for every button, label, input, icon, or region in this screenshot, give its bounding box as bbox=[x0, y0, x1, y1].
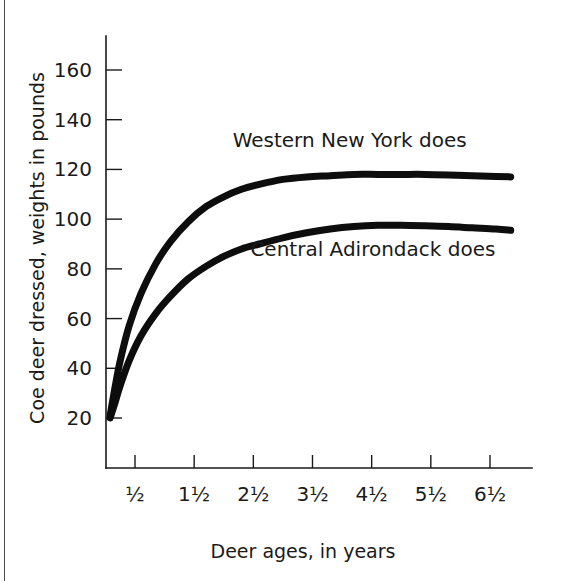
x-axis-ticks: ½1½2½3½4½5½6½ bbox=[125, 455, 506, 506]
y-axis-ticks: 20406080100120140160 bbox=[54, 58, 122, 430]
y-tick-label: 100 bbox=[54, 207, 92, 231]
y-tick-label: 160 bbox=[54, 58, 92, 82]
y-tick-label: 20 bbox=[67, 406, 92, 430]
x-tick-label: 2½ bbox=[237, 482, 269, 506]
series-label-western-new-york-does: Western New York does bbox=[233, 128, 467, 152]
x-tick-label: ½ bbox=[125, 482, 144, 506]
y-tick-label: 60 bbox=[67, 307, 92, 331]
y-tick-label: 80 bbox=[67, 257, 92, 281]
x-tick-label: 5½ bbox=[415, 482, 447, 506]
x-tick-label: 4½ bbox=[356, 482, 388, 506]
y-tick-label: 120 bbox=[54, 157, 92, 181]
x-tick-label: 6½ bbox=[474, 482, 506, 506]
deer-weight-figure: 20406080100120140160 ½1½2½3½4½5½6½ Weste… bbox=[0, 0, 564, 581]
y-tick-label: 40 bbox=[67, 356, 92, 380]
y-axis-title: Coe deer dressed, weights in pounds bbox=[26, 72, 48, 424]
series-annotations: Western New York doesCentral Adirondack … bbox=[233, 128, 496, 261]
series-curves bbox=[110, 174, 511, 418]
series-label-central-adirondack-does: Central Adirondack does bbox=[250, 237, 495, 261]
x-axis-title: Deer ages, in years bbox=[211, 540, 396, 562]
y-tick-label: 140 bbox=[54, 108, 92, 132]
x-tick-label: 3½ bbox=[296, 482, 328, 506]
deer-growth-line-chart: 20406080100120140160 ½1½2½3½4½5½6½ Weste… bbox=[0, 0, 564, 581]
x-tick-label: 1½ bbox=[178, 482, 210, 506]
